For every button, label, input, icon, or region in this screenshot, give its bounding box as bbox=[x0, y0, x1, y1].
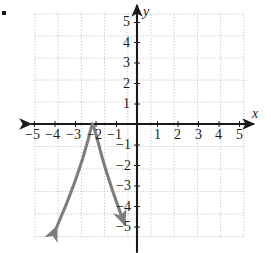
x-tick-label-5: 5 bbox=[236, 128, 243, 142]
x-tick-label--3: −3 bbox=[66, 128, 81, 142]
y-tick-label--1: −1 bbox=[116, 138, 131, 152]
x-tick-label-2: 2 bbox=[174, 128, 181, 142]
x-axis-label: x bbox=[252, 107, 258, 121]
y-tick-label--3: −3 bbox=[116, 179, 131, 193]
y-tick-label-3: 3 bbox=[123, 56, 130, 70]
y-tick-label--2: −2 bbox=[116, 159, 131, 173]
graph-figure: −5 −4 −3 −2 −1 1 2 3 4 5 5 4 3 2 1 −1 −2… bbox=[0, 0, 271, 253]
x-tick-label--4: −4 bbox=[45, 128, 60, 142]
x-tick-label-1: 1 bbox=[154, 128, 161, 142]
y-tick-label-5: 5 bbox=[123, 15, 130, 29]
y-tick-label-4: 4 bbox=[123, 36, 130, 50]
x-tick-label--5: −5 bbox=[25, 128, 40, 142]
y-tick-label--4: −4 bbox=[116, 200, 131, 214]
y-tick-label-1: 1 bbox=[123, 97, 130, 111]
x-tick-label--2: −2 bbox=[87, 128, 102, 142]
x-tick-label-3: 3 bbox=[195, 128, 202, 142]
coordinate-plane bbox=[0, 0, 271, 253]
y-tick-label--5: −5 bbox=[116, 220, 131, 234]
x-tick-label-4: 4 bbox=[215, 128, 222, 142]
y-tick-label-2: 2 bbox=[123, 77, 130, 91]
y-axis-label: y bbox=[143, 5, 149, 19]
